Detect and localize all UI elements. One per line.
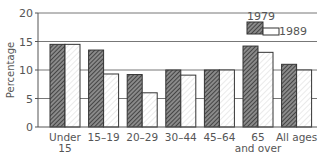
bars: [50, 44, 312, 127]
y-tick-label: 5: [26, 93, 33, 106]
y-axis-label: Percentage: [5, 42, 16, 98]
x-tick-label: 20–29: [126, 131, 158, 143]
legend-swatch-1989: [263, 28, 279, 35]
bar-1989: [181, 75, 196, 127]
x-tick-labels: Under1515–1920–2930–4445–6465and overAll…: [49, 131, 317, 154]
legend-swatch-1979: [247, 22, 263, 34]
bar-1989: [219, 70, 234, 127]
bar-1979: [166, 70, 181, 127]
x-tick-label: 15: [58, 142, 71, 154]
bar-1989: [258, 52, 273, 127]
y-tick-labels: 05101520: [19, 7, 33, 134]
bar-1979: [282, 64, 297, 127]
x-tick-label: and over: [235, 142, 282, 154]
y-tick-label: 20: [19, 7, 33, 20]
x-tick-label: 30–44: [165, 131, 197, 143]
bar-1979: [127, 75, 142, 127]
y-tick-label: 0: [26, 121, 33, 134]
legend: 19791989: [247, 10, 307, 38]
y-tick-label: 10: [19, 64, 33, 77]
bar-1979: [50, 44, 65, 127]
bar-1979: [243, 46, 258, 127]
bar-chart: 05101520 Under1515–1920–2930–4445–6465an…: [0, 0, 329, 164]
x-tick-label: 45–64: [203, 131, 235, 143]
x-tick-label: All ages: [276, 131, 317, 143]
x-tick-label: 15–19: [88, 131, 120, 143]
bar-1989: [297, 70, 312, 127]
bar-1989: [65, 44, 80, 127]
bar-1989: [104, 74, 119, 127]
bar-1979: [204, 70, 219, 127]
legend-label-1979: 1979: [247, 10, 275, 23]
y-tick-label: 15: [19, 36, 33, 49]
bar-1989: [142, 93, 157, 127]
legend-label-1989: 1989: [279, 25, 307, 38]
bar-1979: [89, 50, 104, 127]
